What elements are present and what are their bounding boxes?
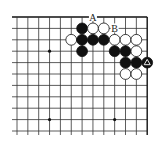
black-stone xyxy=(77,34,88,45)
black-stone xyxy=(77,23,88,34)
white-stone xyxy=(120,34,131,45)
black-stone xyxy=(98,34,109,45)
go-board-diagram: AB xyxy=(0,0,165,149)
stones-layer xyxy=(66,23,153,79)
black-stone xyxy=(109,46,120,57)
star-point xyxy=(113,118,116,121)
white-stone xyxy=(66,34,77,45)
black-stone xyxy=(131,57,142,68)
point-label-b: B xyxy=(111,23,118,34)
white-stone xyxy=(109,34,120,45)
black-stone xyxy=(88,34,99,45)
star-point xyxy=(48,50,51,53)
point-label-a: A xyxy=(89,12,97,23)
black-stone xyxy=(120,46,131,57)
black-stone xyxy=(77,46,88,57)
white-stone xyxy=(131,34,142,45)
black-stone xyxy=(120,57,131,68)
white-stone xyxy=(98,23,109,34)
white-stone xyxy=(131,46,142,57)
white-stone xyxy=(131,69,142,80)
white-stone xyxy=(88,23,99,34)
star-point xyxy=(48,118,51,121)
white-stone xyxy=(120,69,131,80)
